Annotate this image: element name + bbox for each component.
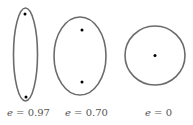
focus-dot-top	[24, 13, 27, 16]
circle-e-0-group: e = 0	[125, 26, 185, 118]
ellipse-e-097	[14, 8, 38, 101]
ellipse-e-070	[54, 17, 106, 95]
focus-dot-top	[81, 29, 84, 32]
label-e-0: e = 0	[145, 107, 172, 118]
label-e-070: e = 0.70	[65, 107, 108, 118]
eccentricity-diagram: e = 0.97 e = 0.70 e = 0	[0, 0, 193, 125]
eccentricity-value: = 0.70	[71, 107, 108, 118]
ellipse-e-070-group: e = 0.70	[54, 17, 108, 118]
eccentricity-value: = 0.97	[13, 107, 50, 118]
center-dot	[154, 54, 157, 57]
focus-dot-bottom	[25, 96, 28, 99]
focus-dot-bottom	[81, 81, 84, 84]
eccentricity-value: = 0	[151, 107, 172, 118]
ellipse-e-097-group: e = 0.97	[7, 8, 50, 118]
label-e-097: e = 0.97	[7, 107, 50, 118]
